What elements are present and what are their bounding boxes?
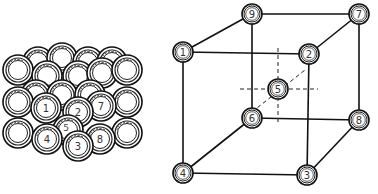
sphere-4: 4 [32,124,62,154]
node-5-center: 5 [268,79,288,99]
unit-cell-model: 9 7 1 2 5 6 8 4 [173,4,369,185]
svg-text:3: 3 [75,141,81,152]
packed-spheres-model: 1 7 2 5 4 8 3 [3,43,142,161]
svg-text:2: 2 [75,107,81,118]
node-1: 1 [173,42,193,62]
sphere-3: 3 [63,131,93,161]
svg-text:5: 5 [275,84,281,95]
sphere-1: 1 [31,93,61,123]
node-6: 6 [242,108,262,128]
svg-text:5: 5 [63,123,69,133]
svg-text:4: 4 [44,134,50,145]
svg-text:8: 8 [97,134,103,145]
node-7: 7 [349,4,369,24]
svg-text:3: 3 [304,170,310,181]
node-4: 4 [173,163,193,183]
svg-text:9: 9 [249,9,255,20]
node-3: 3 [297,165,317,185]
svg-text:1: 1 [43,103,49,114]
node-8: 8 [349,110,369,130]
svg-text:2: 2 [306,49,312,60]
svg-text:6: 6 [249,113,255,124]
node-2: 2 [299,44,319,64]
svg-text:4: 4 [180,168,186,179]
svg-text:7: 7 [356,9,362,20]
node-9: 9 [242,4,262,24]
svg-text:1: 1 [180,47,186,58]
bcc-diagram: 1 7 2 5 4 8 3 [0,0,378,194]
svg-text:8: 8 [356,115,362,126]
svg-text:7: 7 [98,101,104,112]
